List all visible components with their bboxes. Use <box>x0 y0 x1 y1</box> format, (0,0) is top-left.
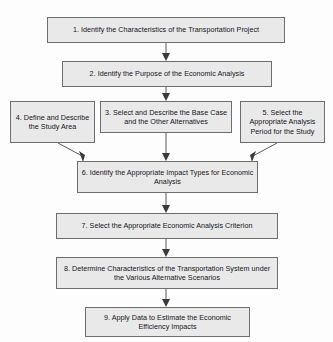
flowchart-node-5-label: 5. Select the Appropriate Analysis Perio… <box>244 108 321 136</box>
edge-1-to-2 <box>162 43 170 61</box>
edge-4-to-6 <box>58 143 85 162</box>
edge-5-to-6 <box>250 143 277 162</box>
edge-2-to-3 <box>162 87 170 101</box>
flowchart-node-4-label: 4. Define and Describe the Study Area <box>14 113 91 132</box>
edge-3-to-6 <box>162 133 170 161</box>
flowchart-node-2[interactable]: 2. Identify the Purpose of the Economic … <box>62 61 272 87</box>
edge-6-to-7 <box>162 193 170 213</box>
flowchart-node-8[interactable]: 8. Determine Characteristics of the Tran… <box>56 257 278 289</box>
flowchart-node-6-label: 6. Identify the Appropriate Impact Types… <box>81 168 254 187</box>
flowchart-node-1[interactable]: 1. Identify the Characteristics of the T… <box>47 17 285 43</box>
flowchart-node-7[interactable]: 7. Select the Appropriate Economic Analy… <box>56 213 278 239</box>
edge-7-to-8 <box>162 239 170 257</box>
flowchart-node-9[interactable]: 9. Apply Data to Estimate the Economic E… <box>85 307 250 337</box>
flowchart-node-6[interactable]: 6. Identify the Appropriate Impact Types… <box>77 161 258 193</box>
flowchart-node-9-label: 9. Apply Data to Estimate the Economic E… <box>89 313 246 332</box>
flowchart-node-2-label: 2. Identify the Purpose of the Economic … <box>66 69 268 78</box>
flowchart-node-5[interactable]: 5. Select the Appropriate Analysis Perio… <box>240 101 325 143</box>
flowchart-node-7-label: 7. Select the Appropriate Economic Analy… <box>60 221 274 230</box>
edge-8-to-9 <box>162 289 170 307</box>
flowchart-canvas: 1. Identify the Characteristics of the T… <box>0 0 333 342</box>
flowchart-node-3-label: 3. Select and Describe the Base Case and… <box>104 108 228 127</box>
flowchart-node-3[interactable]: 3. Select and Describe the Base Case and… <box>100 101 232 133</box>
flowchart-node-1-label: 1. Identify the Characteristics of the T… <box>51 25 281 34</box>
flowchart-node-8-label: 8. Determine Characteristics of the Tran… <box>60 264 274 283</box>
flowchart-node-4[interactable]: 4. Define and Describe the Study Area <box>10 101 95 143</box>
